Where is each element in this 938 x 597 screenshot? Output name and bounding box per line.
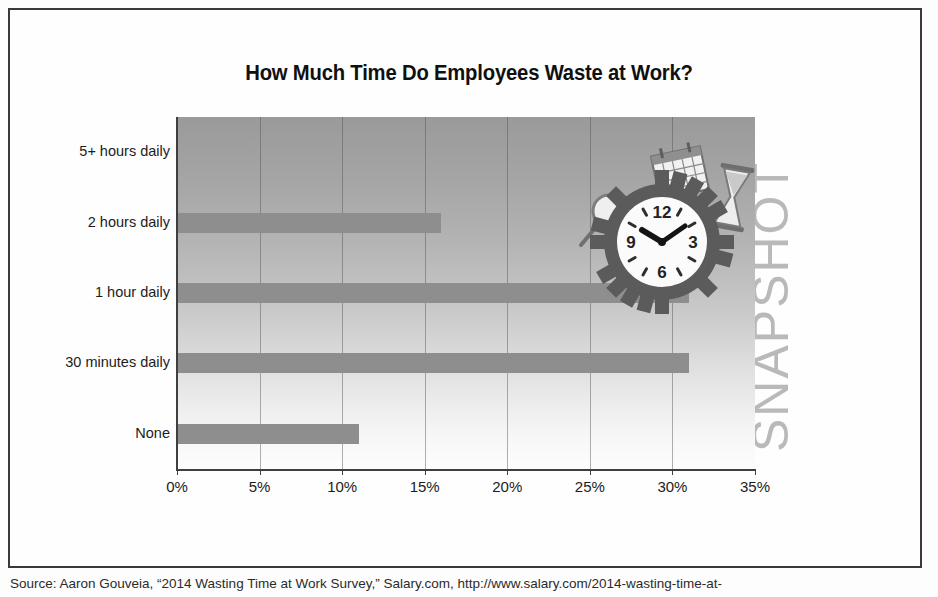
svg-text:12: 12 bbox=[653, 203, 672, 222]
x-axis-tick-label: 20% bbox=[492, 478, 522, 495]
y-axis-label: 1 hour daily bbox=[10, 284, 170, 300]
snapshot-infographic: How Much Time Do Employees Waste at Work… bbox=[0, 0, 938, 597]
x-axis-tick bbox=[425, 469, 426, 475]
x-axis-labels: 0%5%10%15%20%25%30%35% bbox=[177, 478, 755, 502]
hourglass-icon bbox=[710, 163, 755, 233]
x-axis-tick-label: 25% bbox=[575, 478, 605, 495]
x-axis-tick-label: 15% bbox=[410, 478, 440, 495]
x-axis-line bbox=[176, 469, 756, 471]
plot-area: 12 3 6 9 bbox=[177, 117, 755, 469]
x-axis-tick-label: 0% bbox=[166, 478, 188, 495]
y-axis-label: 2 hours daily bbox=[10, 214, 170, 230]
clock-illustration: 12 3 6 9 bbox=[567, 137, 755, 327]
x-axis-tick-label: 35% bbox=[740, 478, 770, 495]
y-axis-label: None bbox=[10, 425, 170, 441]
bar bbox=[177, 353, 689, 373]
x-axis-tick bbox=[507, 469, 508, 475]
x-axis-tick bbox=[755, 469, 756, 475]
x-axis-tick-label: 30% bbox=[657, 478, 687, 495]
svg-text:3: 3 bbox=[688, 233, 697, 252]
page-title: How Much Time Do Employees Waste at Work… bbox=[38, 60, 901, 86]
x-axis-tick bbox=[672, 469, 673, 475]
bar bbox=[177, 213, 441, 233]
y-axis-label: 5+ hours daily bbox=[10, 143, 170, 159]
y-axis-label: 30 minutes daily bbox=[10, 354, 170, 370]
x-axis-tick bbox=[590, 469, 591, 475]
y-axis-line bbox=[176, 117, 178, 470]
x-axis-tick-label: 5% bbox=[249, 478, 271, 495]
x-axis-tick bbox=[177, 469, 178, 475]
x-axis-tick bbox=[260, 469, 261, 475]
y-axis-labels: 5+ hours daily2 hours daily1 hour daily3… bbox=[8, 117, 170, 469]
x-axis-tick-label: 10% bbox=[327, 478, 357, 495]
source-note: Source: Aaron Gouveia, “2014 Wasting Tim… bbox=[10, 576, 938, 591]
svg-text:9: 9 bbox=[626, 233, 635, 252]
bar bbox=[177, 424, 359, 444]
svg-text:6: 6 bbox=[657, 263, 666, 282]
x-axis-tick bbox=[342, 469, 343, 475]
